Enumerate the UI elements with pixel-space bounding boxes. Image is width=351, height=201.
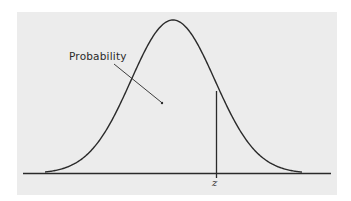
- normal-curve-diagram: [0, 0, 351, 201]
- z-label: z: [212, 177, 217, 188]
- bell-curve: [45, 20, 302, 172]
- probability-arrow-line: [114, 64, 161, 102]
- probability-label: Probability: [69, 50, 127, 62]
- probability-arrow-head-icon: [161, 102, 163, 104]
